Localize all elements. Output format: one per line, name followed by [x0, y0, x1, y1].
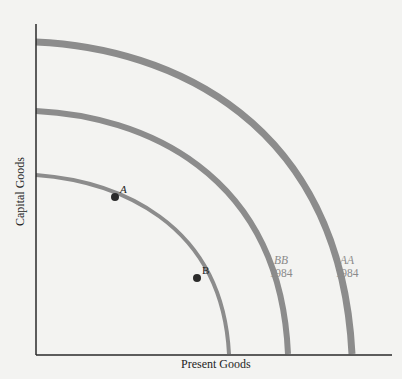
curve-bb — [36, 111, 288, 354]
curve-inner — [36, 175, 229, 354]
curve-aa — [36, 42, 352, 354]
curve-aa-year: 1984 — [332, 267, 362, 280]
point-b — [193, 274, 201, 282]
x-axis-label: Present Goods — [181, 357, 251, 372]
chart-canvas — [0, 0, 402, 379]
curve-bb-label: BB 1984 — [266, 254, 296, 280]
point-a — [111, 193, 119, 201]
point-a-label: A — [120, 183, 127, 195]
curve-bb-year: 1984 — [266, 267, 296, 280]
point-b-label: B — [202, 264, 209, 276]
curve-aa-label: AA 1984 — [332, 254, 362, 280]
curve-bb-name: BB — [266, 254, 296, 267]
curve-aa-name: AA — [332, 254, 362, 267]
y-axis-label: Capital Goods — [13, 152, 28, 232]
